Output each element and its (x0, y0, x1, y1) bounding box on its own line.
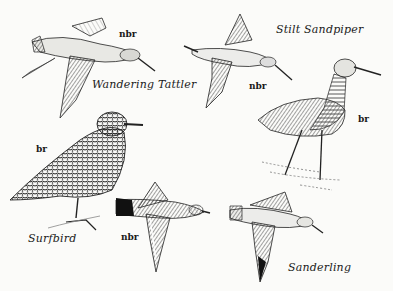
surfbird-fly-lower-wing (146, 214, 170, 272)
stilt-body (192, 48, 272, 66)
tattler-upper-wing (72, 18, 106, 36)
sanderling-label: Sanderling (288, 262, 351, 273)
stilt-standing-bill (354, 67, 381, 75)
stilt-standing-head (334, 59, 356, 77)
stilt-sandpiper-standing-tag: br (358, 115, 369, 124)
stilt-lower-wing (206, 58, 232, 108)
stilt-head-flying (260, 57, 276, 67)
surfbird-standing-tag: br (36, 145, 47, 154)
sanderling-head (297, 217, 313, 227)
surfbird-head (97, 112, 127, 136)
stilt-legs-flying (184, 46, 198, 52)
bird-plate: nbr Wandering Tattler Stilt Sandpiper nb… (0, 0, 393, 291)
wandering-tattler-label: Wandering Tattler (92, 79, 197, 90)
wandering-tattler-plumage-tag: nbr (119, 30, 137, 39)
tattler-bill (138, 58, 155, 71)
sanderling-tail (230, 206, 242, 220)
surfbird-leg (76, 198, 78, 218)
surfbird-foot (66, 220, 96, 230)
tattler-legs (22, 58, 55, 78)
surfbird-flying (116, 182, 210, 272)
surfbird-body (10, 128, 126, 201)
stilt-sandpiper-label: Stilt Sandpiper (276, 24, 364, 35)
surfbird-label: Surfbird (28, 233, 76, 244)
tattler-lower-wing (60, 56, 95, 118)
stilt-sandpiper-flying-tag: nbr (249, 82, 267, 91)
stilt-upper-wing (225, 14, 252, 45)
surfbird-fly-head (189, 205, 203, 215)
stilt-water-ripples (262, 162, 340, 190)
sanderling-lower-wing (252, 222, 275, 282)
surfbird-bill (124, 124, 143, 125)
sanderling-bill (312, 225, 323, 233)
tattler-head (120, 49, 140, 61)
stilt-sandpiper-standing (258, 59, 381, 190)
surfbird-flying-tag: nbr (121, 233, 139, 242)
surfbird-fly-tail-band (116, 198, 134, 216)
stilt-leg-right (320, 130, 322, 180)
bird-illustrations (0, 0, 393, 291)
stilt-bill-flying (275, 65, 292, 80)
